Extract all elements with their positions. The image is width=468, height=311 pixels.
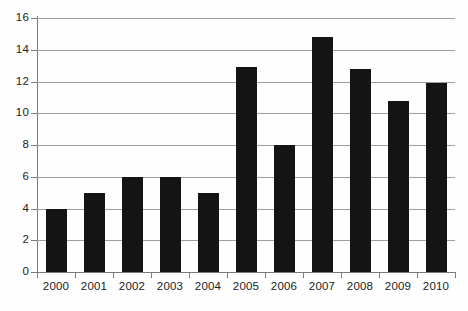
x-tick-origin <box>37 272 38 278</box>
x-tick-2006 <box>303 272 304 278</box>
x-tick-2010 <box>455 272 456 278</box>
bar-2003 <box>160 177 181 272</box>
x-tick-2002 <box>151 272 152 278</box>
x-axis-label-2004: 2004 <box>188 281 228 293</box>
gridline-0 <box>37 272 455 273</box>
bar-2004 <box>198 193 219 272</box>
x-axis-label-2002: 2002 <box>112 281 152 293</box>
x-tick-2009 <box>417 272 418 278</box>
y-tick-16 <box>31 18 37 19</box>
y-tick-8 <box>31 145 37 146</box>
bar-2006 <box>274 145 295 272</box>
bar-2000 <box>46 209 67 273</box>
y-tick-10 <box>31 113 37 114</box>
x-axis-label-2007: 2007 <box>302 281 342 293</box>
x-axis-label-2000: 2000 <box>36 281 76 293</box>
y-axis-label: 12 <box>0 76 29 88</box>
x-tick-2004 <box>227 272 228 278</box>
x-tick-2005 <box>265 272 266 278</box>
x-tick-2001 <box>113 272 114 278</box>
bar-2008 <box>350 69 371 272</box>
bar-2010 <box>426 83 447 272</box>
bar-chart: 0246810121416 20002001200220032004200520… <box>0 0 468 311</box>
bar-2009 <box>388 101 409 272</box>
y-axis-label: 16 <box>0 12 29 24</box>
gridline-14 <box>37 50 455 51</box>
x-tick-2007 <box>341 272 342 278</box>
x-axis-label-2009: 2009 <box>378 281 418 293</box>
x-tick-2003 <box>189 272 190 278</box>
x-axis-label-2001: 2001 <box>74 281 114 293</box>
y-axis-label: 10 <box>0 107 29 119</box>
y-axis-label: 8 <box>0 139 29 151</box>
bar-2002 <box>122 177 143 272</box>
x-axis-label-2005: 2005 <box>226 281 266 293</box>
gridline-16 <box>37 18 455 19</box>
y-axis-label: 6 <box>0 171 29 183</box>
bar-2007 <box>312 37 333 272</box>
x-tick-2000 <box>75 272 76 278</box>
x-tick-2008 <box>379 272 380 278</box>
y-axis-label: 4 <box>0 203 29 215</box>
bar-2001 <box>84 193 105 272</box>
plot-area <box>37 18 455 272</box>
y-tick-14 <box>31 50 37 51</box>
x-axis-label-2010: 2010 <box>416 281 456 293</box>
x-axis-label-2006: 2006 <box>264 281 304 293</box>
bar-2005 <box>236 67 257 272</box>
y-axis-label: 0 <box>0 266 29 278</box>
y-tick-4 <box>31 209 37 210</box>
y-axis-label: 14 <box>0 44 29 56</box>
y-tick-2 <box>31 240 37 241</box>
x-axis-label-2003: 2003 <box>150 281 190 293</box>
y-axis-label: 2 <box>0 234 29 246</box>
y-tick-12 <box>31 82 37 83</box>
x-axis-label-2008: 2008 <box>340 281 380 293</box>
y-tick-6 <box>31 177 37 178</box>
